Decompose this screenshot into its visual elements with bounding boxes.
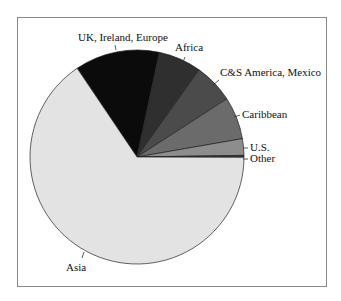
label-uk-ireland-europe: UK, Ireland, Europe <box>78 31 168 43</box>
label-cs-america-mexico: C&S America, Mexico <box>220 66 322 78</box>
pie-chart: UK, Ireland, Europe Africa C&S America, … <box>0 0 341 301</box>
label-asia: Asia <box>66 261 86 273</box>
label-caribbean: Caribbean <box>242 108 288 120</box>
label-africa: Africa <box>175 41 203 53</box>
label-other: Other <box>250 152 275 164</box>
